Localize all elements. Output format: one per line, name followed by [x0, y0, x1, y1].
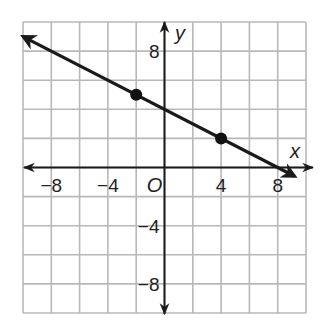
y-tick-label: −4 [138, 216, 160, 237]
y-tick-label: −8 [138, 274, 160, 295]
x-tick-label: −4 [97, 175, 119, 196]
x-tick-label: 8 [272, 175, 283, 196]
y-tick-label: 8 [149, 41, 160, 62]
origin-label: O [147, 174, 163, 196]
y-axis-label: y [173, 22, 186, 44]
x-tick-label: −8 [40, 175, 62, 196]
x-tick-label: 4 [216, 175, 227, 196]
coordinate-plane: −8−4488−4−8Oxy [0, 0, 321, 322]
data-point [130, 89, 142, 101]
axes [24, 22, 313, 314]
x-axis-label: x [289, 140, 301, 162]
data-point [215, 132, 227, 144]
